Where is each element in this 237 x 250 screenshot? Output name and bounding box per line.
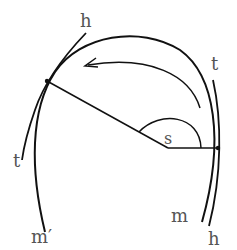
label-m-prime: m′ [31,226,52,247]
point-right [216,146,220,150]
label-s: s [164,129,172,148]
point-left [45,79,49,83]
label-h-top: h [80,10,92,31]
label-t-left: t [13,150,21,171]
radius-to-left-point [47,81,168,148]
diagram-canvas: h t t s m′ m h [0,0,237,250]
label-t-top-right: t [211,53,219,74]
circle-m-arc [35,36,215,232]
label-h-bottom: h [208,228,220,249]
label-m: m [171,205,188,226]
arrowhead-icon [85,58,98,67]
rotation-arrow-arc [88,62,200,108]
